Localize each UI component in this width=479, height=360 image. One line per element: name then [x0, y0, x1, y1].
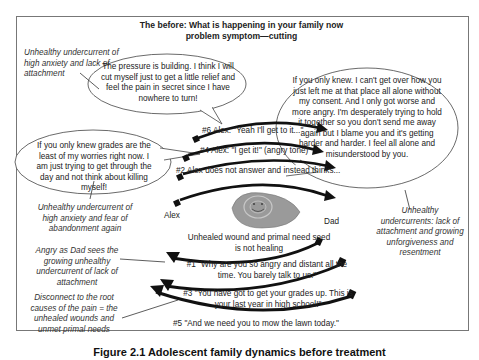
exchange-6: #6 Alex: "Yeah I'll get to it..."	[202, 126, 303, 137]
exchange-1: #1 "Why are you so angry and distant all…	[172, 260, 362, 281]
exchange-2: #2 Alex does not answer and instead thin…	[176, 166, 340, 177]
label-alex: Alex	[164, 211, 180, 222]
exchange-3: #3 "You have got to get your grades up. …	[170, 289, 366, 310]
figure-caption: Figure 2.1 Adolescent family dynamics be…	[0, 346, 479, 358]
exchange-3-line-2: your last year in high school!"	[170, 300, 366, 311]
note-right: Unhealthy undercurrents: lack of attachm…	[376, 206, 464, 259]
seed-caption-line-1: Unhealed wound and primal need seed	[178, 233, 340, 244]
pointer-angry-dad	[120, 259, 165, 262]
note-disconnect: Disconnect to the root causes of the pai…	[30, 293, 118, 335]
note-mid-left: Unhealthy undercurrent of high anxiety a…	[30, 203, 140, 235]
seed-caption: Unhealed wound and primal need seed is n…	[178, 233, 340, 254]
bubble-grades-text: If you only knew grades are the least of…	[36, 141, 152, 194]
note-angry-dad: Angry as Dad sees the growing unhealthy …	[34, 246, 120, 288]
wound-seed-image	[232, 193, 300, 228]
exchange-1-line-2: time. You barely talk to us."	[172, 271, 362, 282]
bubble-dad-text: If you only knew. I can't get over how y…	[290, 76, 444, 160]
label-dad: Dad	[324, 217, 339, 228]
exchange-4: #4 Alex: "I get it!" (angry tone)	[200, 146, 308, 157]
exchange-5: #5 "And we need you to mow the lawn toda…	[173, 319, 339, 330]
seed-caption-line-2: is not healing	[178, 244, 340, 255]
bubble-pressure-text: The pressure is building. I think I will…	[96, 62, 240, 104]
exchange-3-line-1: #3 "You have got to get your grades up. …	[170, 289, 366, 300]
exchange-1-line-1: #1 "Why are you so angry and distant all…	[172, 260, 362, 271]
